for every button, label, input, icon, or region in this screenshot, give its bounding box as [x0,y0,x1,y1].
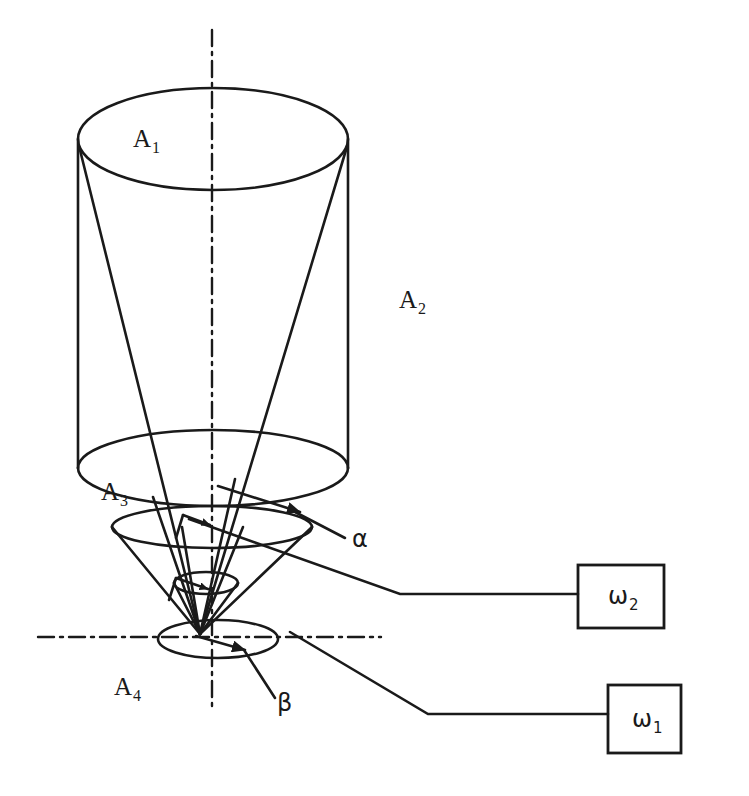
label-a2: A2 [399,286,426,317]
beta-leader [244,650,275,698]
a3-arrow-lower-tail [169,578,176,600]
label-alpha: α [352,525,368,553]
omega2-leader-line [189,519,578,594]
label-a4: A4 [114,673,141,704]
cone-ray-right [200,150,346,634]
a3-arrow-upper [183,515,210,525]
beta-arrow-group [196,636,275,698]
alpha-leader [295,512,345,538]
diagram-svg: A1 A2 A3 A4 α β ω2 ω1 [0,0,749,796]
label-beta: β [277,689,292,717]
label-a1: A1 [133,125,160,156]
label-omega-2: ω2 [608,582,639,614]
label-a3: A3 [101,478,128,509]
a4-ellipse [158,620,278,658]
figure-canvas: A1 A2 A3 A4 α β ω2 ω1 [0,0,749,796]
omega1-leader-line [290,632,608,714]
label-omega-1: ω1 [632,705,663,737]
